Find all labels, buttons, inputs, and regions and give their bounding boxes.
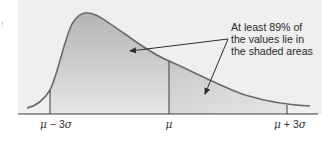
label-sigma-symbol: σ [65, 118, 72, 130]
label-mu-minus-3sigma: μ − 3σ [40, 118, 72, 130]
annotation-line-3: the shaded areas [231, 45, 313, 57]
annotation-line-2: the values lie in [231, 33, 313, 45]
label-operator: + [281, 118, 293, 130]
label-mu-symbol: μ [40, 118, 47, 130]
label-operator: − [47, 118, 59, 130]
label-sigma-symbol: σ [299, 118, 306, 130]
annotation-line-1: At least 89% of [231, 21, 313, 33]
scan-artifact [2, 22, 6, 26]
annotation-text: At least 89% of the values lie in the sh… [231, 21, 313, 57]
label-mu-plus-3sigma: μ + 3σ [274, 118, 306, 130]
label-mu-symbol: μ [274, 118, 281, 130]
label-mu: μ [166, 118, 173, 130]
